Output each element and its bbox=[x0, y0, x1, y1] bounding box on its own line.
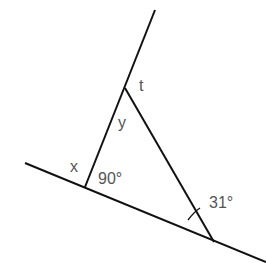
label-t: t bbox=[139, 77, 144, 94]
hypotenuse-line bbox=[125, 88, 214, 242]
transversal-line bbox=[85, 10, 155, 187]
label-y: y bbox=[118, 114, 126, 131]
label-x: x bbox=[70, 158, 78, 175]
geometry-diagram: t y x 90° 31° bbox=[0, 0, 266, 269]
diagram-svg: t y x 90° 31° bbox=[0, 0, 266, 269]
label-31-degrees: 31° bbox=[209, 194, 233, 211]
base-line bbox=[25, 163, 266, 262]
label-90-degrees: 90° bbox=[98, 170, 122, 187]
